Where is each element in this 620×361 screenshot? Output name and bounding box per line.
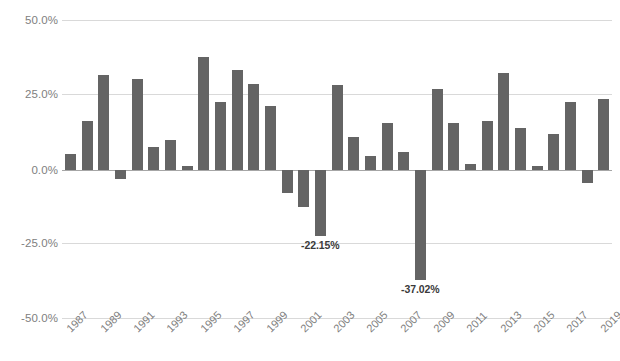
bar[interactable] <box>232 70 243 170</box>
bar[interactable] <box>482 121 493 170</box>
bar[interactable] <box>165 140 176 170</box>
bar[interactable] <box>282 170 293 193</box>
bar-chart: 50.0% 25.0% 0.0% -25.0% -50.0% -22.15%-3… <box>0 0 620 361</box>
bar[interactable] <box>532 166 543 170</box>
bar[interactable] <box>365 156 376 170</box>
bar[interactable] <box>265 106 276 170</box>
bar[interactable] <box>98 75 109 170</box>
bar[interactable] <box>198 57 209 170</box>
y-tick-label: 25.0% <box>2 88 58 100</box>
bar[interactable] <box>498 73 509 170</box>
bar[interactable] <box>598 99 609 170</box>
y-tick-label: 50.0% <box>2 14 58 26</box>
bar[interactable] <box>348 137 359 170</box>
bar[interactable] <box>82 121 93 170</box>
bar[interactable] <box>515 128 526 170</box>
bar[interactable] <box>382 123 393 170</box>
bar[interactable] <box>398 152 409 170</box>
bar[interactable] <box>298 170 309 207</box>
bar[interactable] <box>182 166 193 170</box>
bars-layer <box>62 0 612 330</box>
x-axis-labels: 1987198919911993199519971999200120032005… <box>62 322 620 361</box>
bar[interactable] <box>215 102 226 170</box>
y-tick-label: 0.0% <box>2 164 58 176</box>
bar[interactable] <box>565 102 576 170</box>
bar[interactable] <box>115 170 126 179</box>
bar[interactable] <box>465 164 476 170</box>
bar[interactable] <box>248 84 259 170</box>
bar[interactable] <box>415 170 426 280</box>
bar[interactable] <box>332 85 343 170</box>
bar[interactable] <box>132 79 143 170</box>
bar[interactable] <box>548 134 559 170</box>
bar[interactable] <box>448 123 459 170</box>
bar[interactable] <box>148 147 159 170</box>
bar[interactable] <box>582 170 593 183</box>
bar[interactable] <box>65 154 76 170</box>
bar[interactable] <box>432 89 443 170</box>
y-tick-label: -50.0% <box>2 312 58 324</box>
bar[interactable] <box>315 170 326 236</box>
y-tick-label: -25.0% <box>2 237 58 249</box>
